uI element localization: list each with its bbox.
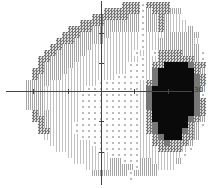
field-cell xyxy=(152,170,158,176)
field-cell xyxy=(188,146,194,152)
vertical-axis xyxy=(101,1,102,185)
axis-tick xyxy=(33,89,34,94)
axis-tick xyxy=(99,121,104,122)
axis-tick xyxy=(168,89,169,94)
field-cell xyxy=(170,164,176,170)
field-cell xyxy=(176,158,182,164)
axis-tick xyxy=(99,63,104,64)
field-cell xyxy=(128,176,134,182)
axis-tick xyxy=(68,89,69,94)
visual-field-plot xyxy=(2,2,206,188)
field-cell xyxy=(200,122,206,128)
axis-tick xyxy=(99,152,104,153)
field-cell xyxy=(182,152,188,158)
axis-tick xyxy=(134,89,135,94)
axis-tick xyxy=(99,33,104,34)
axis-label-30: 30 xyxy=(194,86,203,94)
field-cell xyxy=(194,134,200,140)
